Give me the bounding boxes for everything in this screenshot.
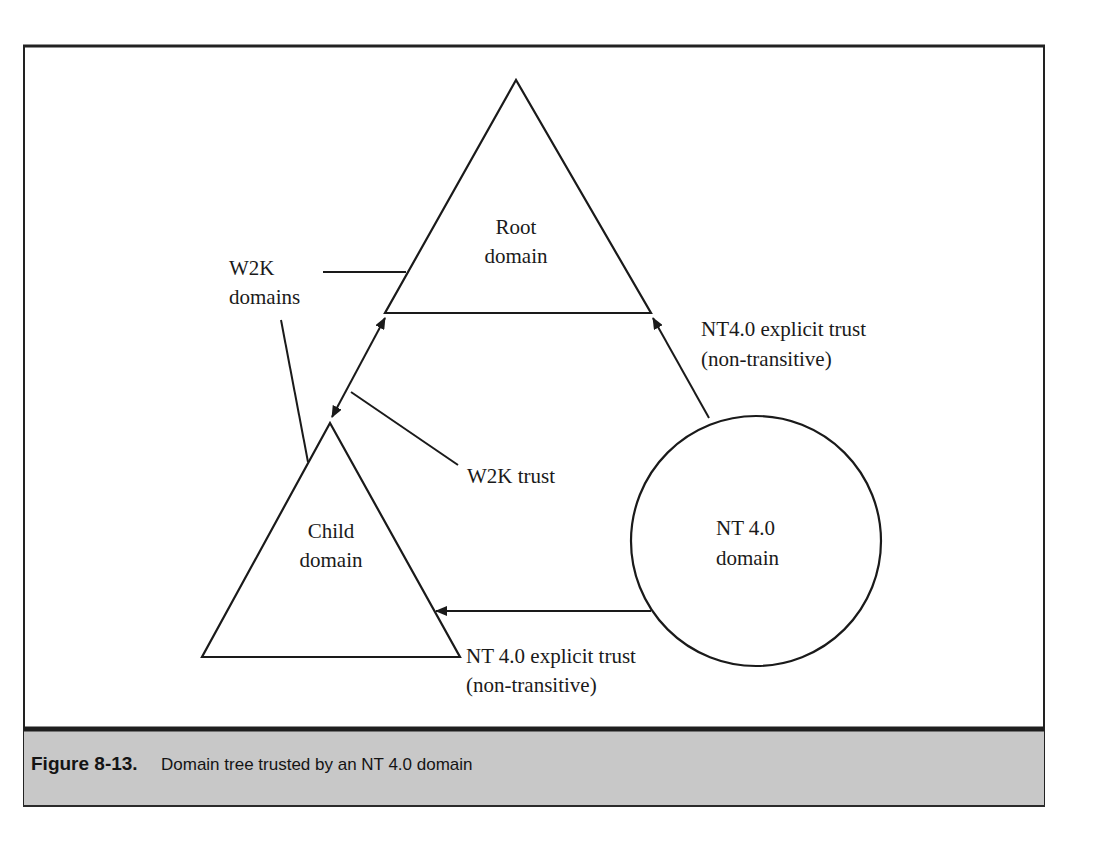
w2k-trust-label: W2K trust	[467, 464, 555, 488]
nt4-child-trust-label-line1: NT 4.0 explicit trust	[466, 644, 636, 668]
nt4-domain-label-line2: domain	[716, 546, 779, 570]
w2k-domains-label-line1: W2K	[229, 256, 275, 280]
figure-caption: Domain tree trusted by an NT 4.0 domain	[161, 755, 473, 774]
w2k-trust-edge: W2K trust	[332, 318, 555, 488]
child-domain-node: Child domain	[202, 423, 460, 657]
w2k-trust-leader	[351, 392, 458, 465]
child-domain-label-line2: domain	[300, 548, 363, 572]
nt4-domain-label-line1: NT 4.0	[716, 516, 775, 540]
root-domain-triangle	[385, 80, 651, 313]
root-domain-node: Root domain	[385, 80, 651, 313]
nt4-domain-circle	[631, 416, 881, 666]
child-domain-label-line1: Child	[308, 519, 355, 543]
nt4-root-trust-edge: NT4.0 explicit trust (non-transitive)	[653, 317, 866, 418]
w2k-domains-label-line2: domains	[229, 285, 300, 309]
w2k-domains-leader-child	[281, 320, 308, 462]
nt4-domain-node: NT 4.0 domain	[631, 416, 881, 666]
caption-bar: Figure 8-13. Domain tree trusted by an N…	[23, 729, 1045, 806]
figure-number: Figure 8-13.	[31, 753, 138, 774]
nt4-child-trust-label-line2: (non-transitive)	[466, 673, 597, 697]
nt4-child-trust-edge: NT 4.0 explicit trust (non-transitive)	[436, 611, 651, 697]
root-domain-label-line1: Root	[496, 215, 537, 239]
figure-diagram: Figure 8-13. Domain tree trusted by an N…	[0, 0, 1101, 845]
root-domain-label-line2: domain	[485, 244, 548, 268]
nt4-root-trust-label-line1: NT4.0 explicit trust	[701, 317, 866, 341]
nt4-root-trust-label-line2: (non-transitive)	[701, 347, 832, 371]
w2k-trust-arrow	[332, 318, 385, 417]
w2k-domains-callout: W2K domains	[229, 256, 406, 462]
